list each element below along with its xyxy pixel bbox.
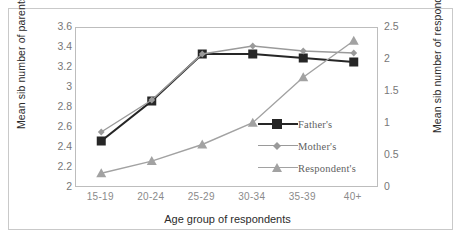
legend-marker-square-icon [272,119,282,129]
y-axis-ticks-left: 3.63.43.232.82.62.42.22 [40,0,72,241]
y-tick-left: 2.6 [40,120,72,132]
y-tick-left: 2.8 [40,100,72,112]
y-tick-left: 3 [40,80,72,92]
legend-item-father-s[interactable]: Father's [258,113,378,135]
data-point [300,48,307,55]
data-point [97,137,106,146]
y-tick-right: 0.5 [384,148,418,160]
data-point [349,58,358,67]
y-tick-left: 2.2 [40,160,72,172]
y-axis-label-left: Mean sib number of parents [15,0,27,129]
legend-key-icon [258,139,298,153]
y-tick-left: 2.4 [40,140,72,152]
data-point [248,50,257,59]
legend-label: Respondent's [298,163,356,174]
data-point [299,54,308,63]
data-point [249,43,256,50]
y-tick-right: 2.5 [384,20,418,32]
y-tick-right: 1 [384,116,418,128]
legend-key-icon [258,161,298,175]
x-tick-35-39: 35-39 [289,191,316,202]
y-tick-right: 1.5 [384,84,418,96]
x-tick-30-34: 30-34 [238,191,265,202]
x-axis-ticks: 15-1920-2425-2930-3435-3940+ [75,191,378,207]
data-point [197,139,207,148]
x-tick-15-19: 15-19 [87,191,114,202]
legend-label: Father's [298,119,332,130]
data-point [298,72,308,81]
y-tick-left: 2 [40,180,72,192]
y-tick-right: 2 [384,52,418,64]
data-point [350,50,357,57]
legend-key-icon [258,117,298,131]
y-axis-label-right: Mean sib number of respondent [431,3,443,133]
data-point [98,129,105,136]
x-axis-label: Age group of respondents [75,213,380,225]
data-point [349,36,359,45]
legend-label: Mother's [298,141,337,152]
legend-marker-diamond-icon [273,142,281,150]
chart-figure: Mean sib number of parents Mean sib numb… [0,0,461,241]
y-tick-left: 3.4 [40,40,72,52]
legend-item-respondent-s[interactable]: Respondent's [258,157,378,179]
chart-legend: Father'sMother'sRespondent's [258,113,378,179]
legend-marker-triangle-icon [272,163,282,172]
y-tick-left: 3.6 [40,20,72,32]
legend-item-mother-s[interactable]: Mother's [258,135,378,157]
y-axis-ticks-right: 2.521.510.50 [384,0,418,241]
y-tick-left: 3.2 [40,60,72,72]
y-tick-right: 0 [384,180,418,192]
x-tick-20-24: 20-24 [137,191,164,202]
x-tick-40+: 40+ [344,191,362,202]
x-tick-25-29: 25-29 [188,191,215,202]
